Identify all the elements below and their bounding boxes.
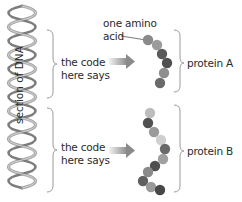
amino-acid-label-line2: acid [103,30,124,42]
protein-a-amino-acid-bead [152,40,162,50]
lower-code-label-line2: here says [61,154,110,166]
upper-dna-bracket [47,30,57,98]
protein-b-amino-acid-bead [155,185,165,195]
protein-b-amino-acid-bead [143,118,153,128]
upper-code-label-line2: here says [61,69,110,81]
protein-b-amino-acid-bead [149,127,159,137]
protein-b-bracket [174,105,184,192]
amino-acid-pointer-line [121,36,146,40]
protein-a-amino-acid-bead [157,49,167,59]
protein-a-amino-acid-bead [155,78,165,88]
protein-b-amino-acid-bead [143,167,153,177]
lower-dna-bracket [47,108,57,192]
lower-arrow-icon [109,143,135,158]
amino-acid-label-line1: one amino [103,17,157,29]
protein-b-amino-acid-bead [158,154,168,164]
protein-b-amino-acid-bead [146,182,156,192]
lower-code-label-line1: the code [61,141,105,153]
protein-a-label: protein A [187,57,233,69]
dna-section-label: section of DNA [13,43,25,127]
protein-a-bracket [174,30,184,92]
upper-code-label-line1: the code [61,56,105,68]
protein-b-amino-acid-bead [156,135,166,145]
protein-a-amino-acid-bead [143,35,153,45]
protein-a-amino-acid-bead [159,68,169,78]
protein-a-amino-acid-bead [162,58,172,68]
protein-b-amino-acid-bead [160,144,170,154]
protein-b-amino-acid-bead [145,108,155,118]
protein-a-chain [143,35,172,88]
protein-b-label: protein B [187,145,233,157]
protein-b-chain [138,108,170,195]
upper-arrow-icon [109,54,135,69]
